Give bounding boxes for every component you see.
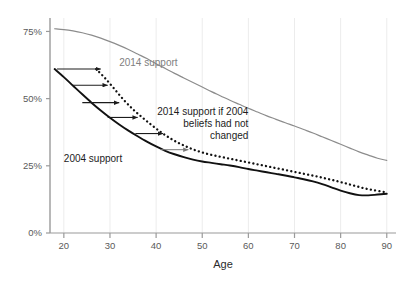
x-tick-label-30: 30: [105, 240, 116, 251]
chart-container: 0%25%50%75% 2030405060708090 2014 suppor…: [0, 0, 403, 282]
y-tick-label-50%: 50%: [23, 93, 43, 104]
y-tick-label-25%: 25%: [23, 160, 43, 171]
x-tick-label-80: 80: [335, 240, 346, 251]
support-by-age-line-chart: 0%25%50%75% 2030405060708090 2014 suppor…: [0, 0, 403, 282]
counterfactual-label-line2: beliefs had not: [183, 118, 248, 129]
y-tick-label-75%: 75%: [23, 26, 43, 37]
x-tick-label-50: 50: [197, 240, 208, 251]
counterfactual-label-line3: changed: [210, 130, 248, 141]
2014-support-label: 2014 support: [119, 57, 178, 68]
x-tick-label-20: 20: [59, 240, 70, 251]
2004-support-label: 2004 support: [64, 153, 123, 164]
x-tick-label-60: 60: [243, 240, 254, 251]
x-tick-label-40: 40: [151, 240, 162, 251]
y-tick-label-0%: 0%: [28, 227, 42, 238]
x-tick-label-90: 90: [381, 240, 392, 251]
x-tick-label-70: 70: [289, 240, 300, 251]
counterfactual-label-line1: 2014 support if 2004: [157, 106, 249, 117]
x-axis-title: Age: [213, 258, 233, 270]
